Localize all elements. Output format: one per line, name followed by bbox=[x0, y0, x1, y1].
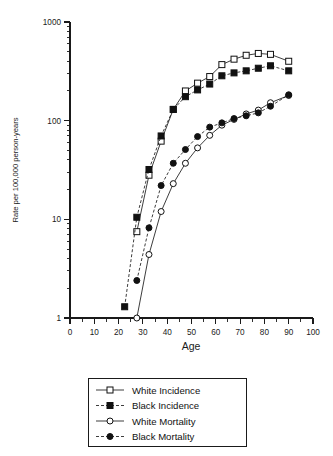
legend-label: Black Mortality bbox=[132, 431, 195, 442]
y-axis-title: Rate per 100,000 person-years bbox=[11, 117, 20, 222]
legend-sample-filled-square-marker bbox=[107, 403, 113, 409]
data-point-filled-square-marker bbox=[158, 133, 164, 139]
data-point-filled-square-marker bbox=[231, 70, 237, 76]
data-point-filled-square-marker bbox=[207, 81, 213, 87]
data-point-open-square-marker bbox=[243, 52, 249, 58]
data-point-filled-square-marker bbox=[255, 65, 261, 71]
y-tick-label: 10 bbox=[52, 215, 62, 224]
data-point-open-circle-marker bbox=[158, 209, 164, 215]
data-point-filled-circle-marker bbox=[243, 113, 249, 119]
data-point-open-circle-marker bbox=[182, 160, 188, 166]
data-point-open-circle-marker bbox=[207, 132, 213, 138]
data-point-open-square-marker bbox=[286, 58, 292, 64]
chart-figure: 1101001000 0102030405060708090100 Age Ra… bbox=[0, 0, 333, 456]
data-point-open-square-marker bbox=[182, 88, 188, 94]
data-point-filled-circle-marker bbox=[219, 120, 225, 126]
x-tick-label: 100 bbox=[306, 328, 320, 337]
data-point-filled-square-marker bbox=[286, 68, 292, 74]
x-tick-label: 20 bbox=[114, 328, 124, 337]
rate-by-age-log-chart: 1101001000 0102030405060708090100 Age Ra… bbox=[0, 0, 333, 456]
y-tick-label: 1 bbox=[56, 314, 61, 323]
x-tick-label: 30 bbox=[138, 328, 148, 337]
data-point-filled-circle-marker bbox=[182, 147, 188, 153]
x-tick-label: 90 bbox=[284, 328, 294, 337]
data-point-filled-square-marker bbox=[146, 166, 152, 172]
data-point-filled-circle-marker bbox=[158, 183, 164, 189]
data-point-open-square-marker bbox=[219, 62, 225, 68]
data-point-filled-circle-marker bbox=[286, 92, 292, 98]
data-point-open-square-marker bbox=[267, 51, 273, 57]
data-point-open-circle-marker bbox=[170, 181, 176, 187]
legend-label: White Incidence bbox=[132, 385, 200, 396]
data-point-open-circle-marker bbox=[146, 252, 152, 258]
x-tick-label: 60 bbox=[211, 328, 221, 337]
legend-label: White Mortality bbox=[132, 416, 196, 427]
data-point-filled-square-marker bbox=[267, 63, 273, 69]
legend-sample-filled-circle-marker bbox=[107, 434, 113, 440]
data-point-open-circle-marker bbox=[134, 315, 140, 321]
data-point-filled-square-marker bbox=[134, 214, 140, 220]
data-point-filled-circle-marker bbox=[231, 116, 237, 122]
data-point-open-square-marker bbox=[195, 80, 201, 86]
data-point-filled-circle-marker bbox=[134, 277, 140, 283]
x-tick-label: 50 bbox=[187, 328, 197, 337]
y-tick-label: 100 bbox=[47, 117, 61, 126]
x-tick-label: 80 bbox=[260, 328, 270, 337]
data-point-filled-circle-marker bbox=[267, 103, 273, 109]
data-point-filled-circle-marker bbox=[255, 110, 261, 116]
data-point-filled-square-marker bbox=[170, 106, 176, 112]
x-tick-label: 0 bbox=[68, 328, 73, 337]
data-point-open-square-marker bbox=[207, 74, 213, 80]
x-axis-title: Age bbox=[182, 340, 201, 352]
legend-sample-open-circle-marker bbox=[107, 418, 113, 424]
data-point-open-square-marker bbox=[255, 50, 261, 56]
data-point-filled-square-marker bbox=[182, 94, 188, 100]
legend-sample-open-square-marker bbox=[107, 387, 113, 393]
x-tick-label: 10 bbox=[90, 328, 100, 337]
data-point-filled-square-marker bbox=[122, 304, 128, 310]
data-point-filled-circle-marker bbox=[146, 225, 152, 231]
x-tick-label: 70 bbox=[236, 328, 246, 337]
x-tick-label: 40 bbox=[163, 328, 173, 337]
data-point-open-circle-marker bbox=[195, 145, 201, 151]
data-point-filled-circle-marker bbox=[195, 134, 201, 140]
data-point-filled-square-marker bbox=[243, 68, 249, 74]
y-tick-label: 1000 bbox=[43, 18, 62, 27]
chart-legend: White IncidenceBlack IncidenceWhite Mort… bbox=[88, 378, 246, 446]
legend-label: Black Incidence bbox=[132, 400, 199, 411]
data-point-filled-circle-marker bbox=[170, 160, 176, 166]
data-point-filled-square-marker bbox=[195, 87, 201, 93]
data-point-open-square-marker bbox=[231, 56, 237, 62]
data-point-filled-square-marker bbox=[219, 73, 225, 79]
data-point-filled-circle-marker bbox=[207, 124, 213, 130]
